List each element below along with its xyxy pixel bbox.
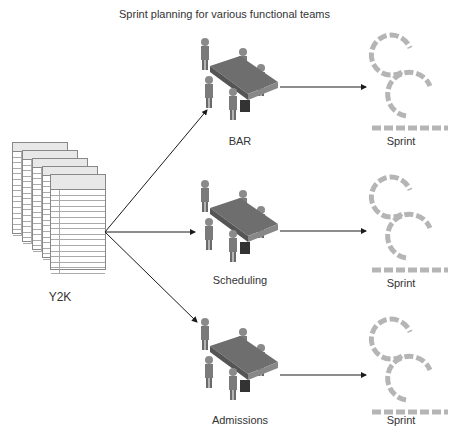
team-label-scheduling: Scheduling [190,274,290,286]
team-scheduling-meeting-icon [201,180,278,262]
sprint-label: Sprint [351,414,449,426]
team-admissions-meeting-icon [201,318,278,400]
sprint-cycle-icon [371,319,448,412]
arrow-to-bar [105,110,207,232]
sprint-label: Sprint [351,135,449,147]
sprint-cycle-icon [371,35,448,128]
team-label-admissions: Admissions [190,414,290,426]
team-bar-meeting-icon [201,38,278,120]
team-label-bar: BAR [190,135,290,147]
arrow-to-admissions [105,232,197,322]
sprint-cycle-icon [371,177,448,270]
connectors [0,0,449,434]
sprint-label: Sprint [351,277,449,289]
